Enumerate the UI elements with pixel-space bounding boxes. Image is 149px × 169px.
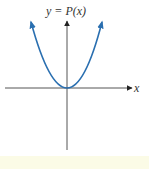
parabola-curve (31, 22, 67, 88)
parabola-curve-right (67, 22, 102, 88)
y-axis-label: y = P(x) (45, 4, 86, 18)
parabola-graph: y = P(x) x (0, 0, 149, 169)
x-axis-label: x (133, 81, 140, 95)
bottom-band (0, 156, 149, 169)
